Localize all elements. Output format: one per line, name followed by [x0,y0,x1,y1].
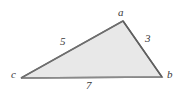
triangle-shape [0,0,185,95]
vertex-label-b: b [167,69,173,80]
triangle-edge-cb [21,77,162,78]
triangle-figure: a b c 5 3 7 [0,0,185,95]
side-length-label-ab: 3 [145,33,151,44]
triangle-polygon [21,21,162,78]
vertex-label-a: a [118,7,124,18]
side-length-label-cb: 7 [86,80,92,91]
side-length-label-ca: 5 [60,36,66,47]
vertex-label-c: c [11,69,16,80]
